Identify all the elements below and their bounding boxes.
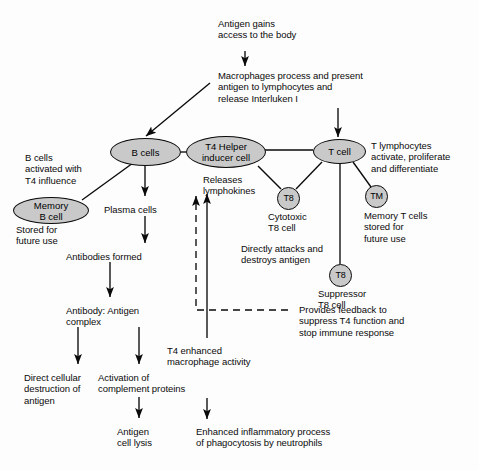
label-antibodies-formed: Antibodies formed — [66, 251, 142, 262]
cropped-title — [150, 0, 450, 10]
label-memory-b-note: Stored for future use — [16, 224, 58, 247]
label-antigen-entry: Antigen gains access to the body — [218, 18, 296, 41]
node-suppressor-t8-cell[interactable]: T8 — [329, 264, 352, 287]
label-b-cells-activated: B cells activated with T4 influence — [25, 152, 82, 186]
label-releases-lymphokines: Releases lymphokines — [203, 174, 255, 197]
node-memory-b-cell[interactable]: Memory B cell — [13, 197, 89, 224]
node-t-cell[interactable]: T cell — [313, 139, 366, 164]
label-directly-attacks: Directly attacks and destroys antigen — [241, 243, 323, 266]
immune-response-diagram: Antigen gains access to the body Macroph… — [0, 0, 479, 470]
line-bcells-to-memoryb — [82, 163, 133, 200]
label-t-lymphocytes: T lymphocytes activate, proliferate and … — [371, 140, 450, 174]
label-macrophage-process: Macrophages process and present antigen … — [218, 70, 363, 104]
node-b-cells[interactable]: B cells — [110, 138, 181, 166]
label-t4-enhanced: T4 enhanced macrophage activity — [167, 345, 251, 368]
label-antigen-cell-lysis: Antigen cell lysis — [117, 426, 152, 449]
label-cytotoxic-caption: Cytotoxic T8 cell — [268, 211, 307, 234]
label-antibody-antigen-complex: Antibody: Antigen complex — [66, 305, 139, 328]
label-direct-destruction: Direct cellular destruction of antigen — [24, 372, 81, 406]
node-memory-t-cell[interactable]: TM — [365, 185, 388, 208]
arrow-macrophage-to-bcells — [146, 83, 210, 136]
label-feedback: Provides feedback to suppress T4 functio… — [299, 304, 404, 338]
label-memory-t-note: Memory T cells stored for future use — [364, 210, 427, 244]
label-plasma-cells: Plasma cells — [104, 204, 157, 215]
line-tcell-to-cytotoxic-t8 — [296, 162, 322, 189]
node-cytotoxic-t8-cell[interactable]: T8 — [277, 187, 300, 210]
line-tcell-to-memoryt — [353, 162, 371, 187]
line-t4-to-cytotoxic-t8 — [258, 166, 281, 189]
label-activation-complement: Activation of complement proteins — [98, 372, 185, 395]
label-enhanced-inflammatory: Enhanced inflammatory process of phagocy… — [196, 426, 330, 449]
node-t4-helper-inducer-cell[interactable]: T4 Helper inducer cell — [186, 136, 266, 168]
